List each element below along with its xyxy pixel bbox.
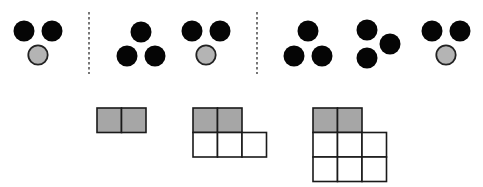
- white-square: [362, 157, 387, 182]
- dot-group-6: [422, 21, 471, 65]
- black-dot: [42, 21, 63, 42]
- black-dot: [117, 46, 138, 67]
- dot-group-3: [182, 21, 231, 65]
- gray-square: [97, 108, 122, 133]
- gray-dot: [28, 45, 47, 64]
- black-dot: [357, 20, 378, 41]
- black-dot: [14, 21, 35, 42]
- black-dot: [357, 48, 378, 69]
- white-square: [362, 133, 387, 158]
- gray-square: [338, 108, 363, 133]
- white-square: [242, 133, 267, 158]
- black-dot: [380, 34, 401, 55]
- black-dot: [131, 22, 152, 43]
- black-dot: [284, 46, 305, 67]
- dot-group-4: [284, 21, 333, 67]
- white-square: [193, 133, 218, 158]
- black-dot: [182, 21, 203, 42]
- pattern-figure: [0, 0, 483, 187]
- gray-square: [218, 108, 243, 133]
- white-square: [313, 157, 338, 182]
- black-dot: [298, 21, 319, 42]
- white-square: [218, 133, 243, 158]
- black-dot: [210, 21, 231, 42]
- grid-1: [97, 108, 146, 133]
- grid-2: [193, 108, 267, 157]
- black-dot: [312, 46, 333, 67]
- white-square: [313, 133, 338, 158]
- white-square: [338, 157, 363, 182]
- gray-square: [313, 108, 338, 133]
- dot-group-2: [117, 22, 166, 67]
- white-square: [338, 133, 363, 158]
- black-dot: [422, 21, 443, 42]
- black-dot: [145, 46, 166, 67]
- gray-square: [193, 108, 218, 133]
- gray-dot: [196, 45, 215, 64]
- gray-dot: [436, 45, 455, 64]
- gray-square: [122, 108, 147, 133]
- black-dot: [450, 21, 471, 42]
- dot-group-1: [14, 21, 63, 65]
- grid-3: [313, 108, 387, 182]
- dot-group-5: [357, 20, 401, 69]
